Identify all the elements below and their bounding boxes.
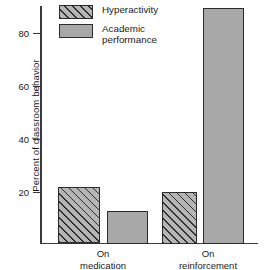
bar-hyperactivity-on-medication [58, 187, 100, 244]
y-tick-mark-80 [33, 33, 40, 34]
x-category-label-on-medication: On medication [58, 248, 148, 270]
legend-swatch-academic-performance-icon [59, 24, 93, 38]
bar-academic-performance-on-reinforcement [203, 8, 244, 244]
y-axis-line [40, 6, 42, 244]
bar-hyperactivity-on-reinforcement [162, 192, 197, 244]
chart-legend: Hyperactivity Academic performance [59, 4, 158, 49]
x-category-label-on-medication-line1: On [58, 248, 148, 260]
x-category-label-on-reinforcement: On reinforcement [158, 248, 258, 270]
y-tick-mark-60 [33, 86, 40, 87]
bar-chart-figure: Percent of classroom behavior 20 40 60 8… [0, 0, 266, 270]
x-category-label-on-medication-line2: medication [58, 260, 148, 270]
legend-item-academic-performance: Academic performance [59, 23, 158, 45]
y-tick-label-20: 20 [3, 187, 29, 198]
bar-academic-performance-on-medication [107, 211, 148, 244]
y-tick-label-80: 80 [3, 28, 29, 39]
legend-label-academic-performance: Academic performance [102, 23, 157, 45]
legend-item-hyperactivity: Hyperactivity [59, 4, 158, 19]
y-tick-mark-40 [33, 139, 40, 140]
x-category-label-on-reinforcement-line1: On [158, 248, 258, 260]
x-category-label-on-reinforcement-line2: reinforcement [158, 260, 258, 270]
legend-swatch-hyperactivity-icon [59, 5, 93, 19]
y-tick-mark-20 [33, 192, 40, 193]
legend-label-hyperactivity: Hyperactivity [102, 4, 158, 15]
y-tick-label-60: 60 [3, 81, 29, 92]
y-tick-label-40: 40 [3, 134, 29, 145]
